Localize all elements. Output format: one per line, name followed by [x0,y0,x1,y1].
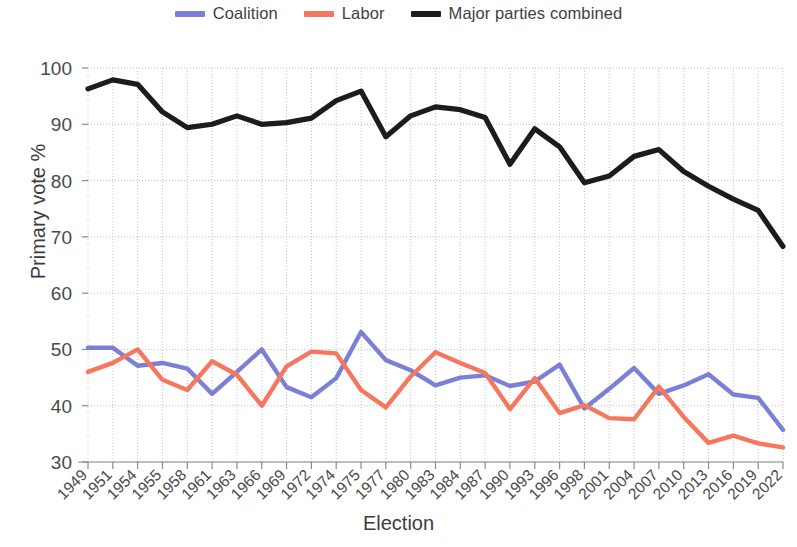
x-tick-labels: 1949195119541955195819611963196619691972… [54,466,785,503]
chart-canvas: 3040506070809010019491951195419551958196… [0,0,797,547]
y-tick-label: 30 [51,452,72,473]
x-tick-label: 2022 [749,466,785,502]
y-tick-label: 50 [51,339,72,360]
plot-area: 3040506070809010019491951195419551958196… [0,0,797,547]
primary-vote-line-chart: Coalition Labor Major parties combined 3… [0,0,797,547]
y-tick-label: 80 [51,171,72,192]
y-tick-label: 40 [51,396,72,417]
y-tick-label: 90 [51,114,72,135]
y-tick-label: 60 [51,283,72,304]
y-axis-title: Primary vote % [27,112,50,312]
y-tick-label: 70 [51,227,72,248]
x-axis-title: Election [0,512,797,535]
y-tick-label: 100 [40,58,72,79]
